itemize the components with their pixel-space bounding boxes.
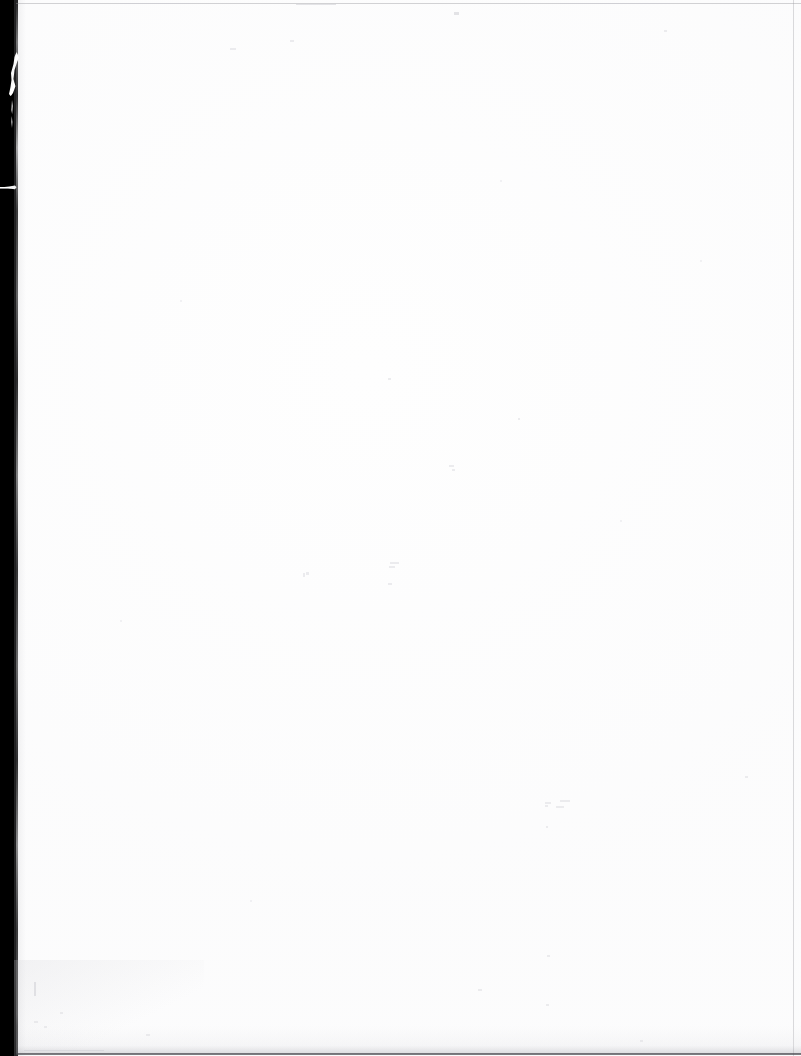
page-content-area <box>70 70 755 982</box>
scan-border-left <box>0 0 16 1056</box>
paper-sheet <box>14 0 801 1056</box>
scanned-page <box>0 0 801 1056</box>
